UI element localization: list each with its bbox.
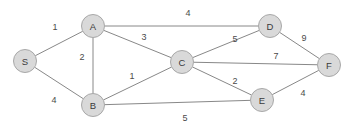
graph-edge-c-d (193, 30, 260, 57)
graph-edge-s-b (35, 67, 84, 99)
edge-weight-s-a: 1 (52, 22, 57, 32)
edge-weight-b-c: 1 (129, 71, 134, 81)
graph-edge-d-f (280, 32, 320, 58)
graph-edge-e-f (272, 70, 319, 94)
graph-edge-b-c (103, 67, 171, 100)
node-circle-f[interactable] (318, 54, 341, 77)
graph-node-b[interactable]: B (82, 94, 105, 117)
edge-weight-e-f: 4 (300, 88, 305, 98)
node-circle-d[interactable] (259, 15, 282, 38)
graph-node-d[interactable]: D (259, 15, 282, 38)
edge-weight-s-b: 4 (51, 95, 56, 105)
edge-weight-b-e: 5 (182, 113, 187, 123)
graph-edge-b-e (104, 100, 250, 104)
edge-weight-a-b: 2 (79, 52, 84, 62)
node-circle-s[interactable] (14, 50, 37, 73)
graph-svg: 142341557294 SABCDEF (0, 0, 356, 129)
graph-node-c[interactable]: C (171, 51, 194, 74)
graph-node-e[interactable]: E (251, 89, 274, 112)
graph-edge-s-a (35, 31, 83, 55)
edge-weight-a-c: 3 (141, 32, 146, 42)
graph-node-s[interactable]: S (14, 50, 37, 73)
edge-weight-c-d: 5 (232, 34, 237, 44)
nodes-layer: SABCDEF (14, 15, 341, 117)
edge-weight-c-f: 7 (273, 51, 278, 61)
node-circle-a[interactable] (82, 15, 105, 38)
edge-weight-c-e: 2 (232, 76, 237, 86)
graph-diagram-canvas: 142341557294 SABCDEF (0, 0, 356, 129)
graph-node-a[interactable]: A (82, 15, 105, 38)
graph-node-f[interactable]: F (318, 54, 341, 77)
edge-weight-d-f: 9 (301, 33, 306, 43)
graph-edge-a-c (104, 30, 172, 57)
graph-edge-c-f (193, 62, 317, 65)
graph-edge-c-e (192, 67, 251, 95)
node-circle-e[interactable] (251, 89, 274, 112)
node-circle-b[interactable] (82, 94, 105, 117)
node-circle-c[interactable] (171, 51, 194, 74)
edge-weight-a-d: 4 (185, 8, 190, 18)
